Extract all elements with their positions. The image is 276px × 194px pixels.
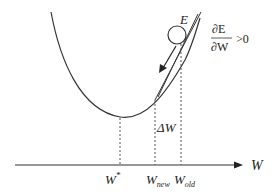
descent-arrow [159, 46, 176, 73]
tick-w-old: Wold [174, 172, 196, 189]
arrow-head-icon [159, 64, 167, 73]
derivative-relation: >0 [236, 32, 249, 46]
axis-label: W [251, 158, 264, 173]
tick-labels: W* Wnew Wold [105, 170, 196, 189]
derivative-expression: ∂E ∂W >0 [211, 22, 249, 54]
delta-w-label: ΔW [156, 120, 177, 135]
tick-w-star: W* [105, 170, 121, 187]
gradient-descent-diagram: W E ∂E ∂W >0 ΔW W* Wnew Wold [0, 0, 276, 194]
tangent-line [155, 12, 201, 100]
dashed-guides [120, 44, 181, 165]
ball-label: E [179, 12, 188, 27]
derivative-numerator: ∂E [212, 22, 225, 36]
tick-w-new: Wnew [146, 172, 170, 189]
derivative-denominator: ∂W [211, 40, 229, 54]
ball-icon [168, 26, 186, 44]
axis-arrow-icon [234, 162, 243, 169]
x-axis: W [15, 158, 264, 173]
